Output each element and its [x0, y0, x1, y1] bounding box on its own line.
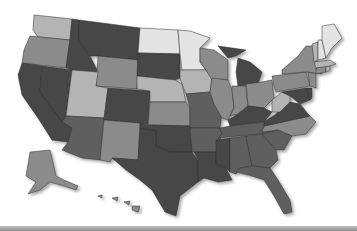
state-nm — [100, 120, 140, 162]
state-hi — [98, 195, 140, 212]
state-co — [104, 88, 150, 124]
state-ri — [326, 66, 330, 72]
state-or — [22, 36, 70, 68]
state-ks — [148, 102, 190, 126]
state-wy — [96, 56, 138, 89]
state-sd — [137, 53, 180, 80]
state-oh — [246, 80, 274, 108]
states-layer — [18, 15, 342, 216]
state-me — [322, 24, 342, 58]
state-wa — [33, 15, 72, 40]
state-fl — [236, 166, 292, 214]
bottom-border — [0, 226, 357, 231]
state-ak — [26, 150, 78, 194]
state-ma — [314, 60, 336, 68]
state-nd — [138, 28, 180, 54]
us-choropleth-map — [0, 0, 357, 226]
state-ia — [180, 70, 212, 94]
